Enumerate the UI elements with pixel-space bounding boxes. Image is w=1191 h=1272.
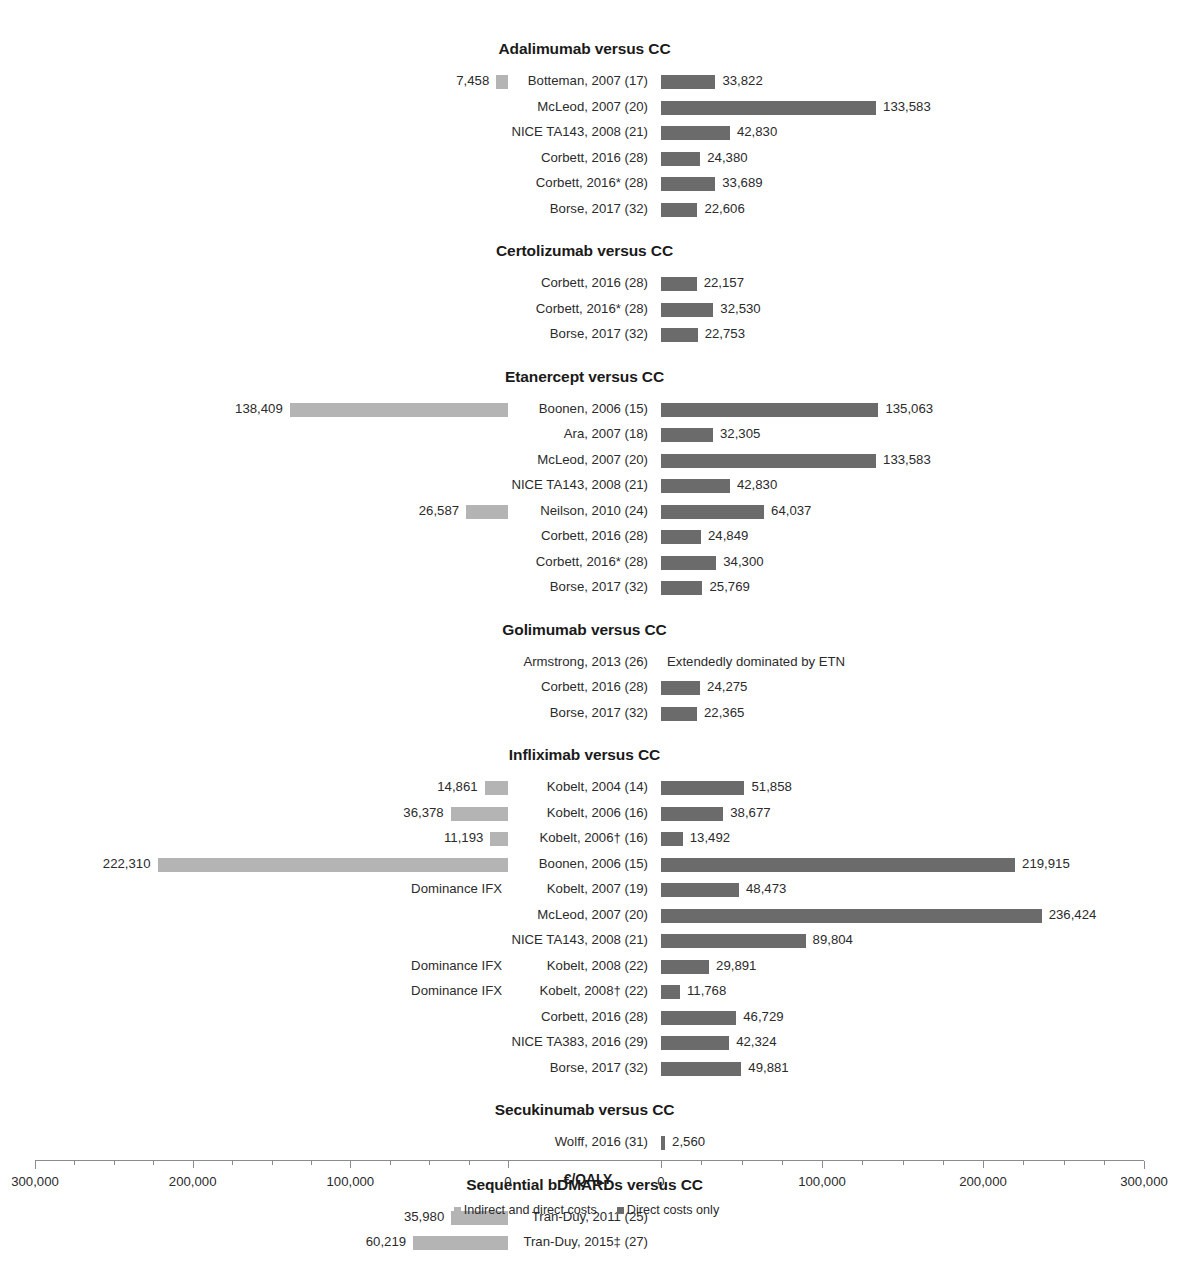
bar-direct-only	[661, 707, 697, 721]
row-right-side: 33,689	[661, 172, 1191, 196]
chart-legend: Indirect and direct costsDirect costs on…	[0, 1203, 1191, 1217]
bar-value-label-right: 49,881	[748, 1060, 788, 1075]
row-left-note: Dominance IFX	[411, 958, 502, 973]
bar-direct-only	[661, 277, 697, 291]
row-left-side	[0, 904, 508, 928]
chart-row: NICE TA383, 2016 (29)42,324	[0, 1031, 1191, 1055]
row-left-side	[0, 1006, 508, 1030]
bar-direct-only	[661, 101, 876, 115]
bar-direct-only	[661, 479, 730, 493]
row-study-label: Borse, 2017 (32)	[508, 326, 654, 341]
bar-value-label-left: 7,458	[456, 73, 489, 88]
legend-swatch-icon	[454, 1207, 461, 1214]
row-study-label: Kobelt, 2008 (22)	[508, 958, 654, 973]
row-study-label: Corbett, 2016 (28)	[508, 150, 654, 165]
row-right-side: 133,583	[661, 96, 1191, 120]
row-right-side: 11,768	[661, 980, 1191, 1004]
bar-value-label-left: 14,861	[437, 779, 477, 794]
chart-row: Ara, 2007 (18)32,305	[0, 423, 1191, 447]
bar-value-label-left: 11,193	[444, 830, 483, 845]
bar-direct-only	[661, 883, 739, 897]
bar-value-label-right: 219,915	[1022, 856, 1070, 871]
row-right-side: 22,753	[661, 323, 1191, 347]
bar-value-label-left: 222,310	[103, 856, 151, 871]
bar-value-label-right: 32,530	[720, 301, 760, 316]
bar-value-label-right: 42,830	[737, 477, 777, 492]
row-study-label: Kobelt, 2008† (22)	[508, 983, 654, 998]
row-right-side: 42,830	[661, 474, 1191, 498]
icer-forest-bar-chart: Adalimumab versus CC7,458Botteman, 2007 …	[0, 0, 1191, 1272]
bar-value-label-left: 26,587	[419, 503, 459, 518]
axis-tick	[311, 1161, 312, 1165]
bar-direct-only	[661, 681, 700, 695]
bar-indirect-and-direct	[290, 403, 508, 417]
row-right-side: 42,830	[661, 121, 1191, 145]
chart-row: NICE TA143, 2008 (21)89,804	[0, 929, 1191, 953]
row-right-side: 135,063	[661, 398, 1191, 422]
bar-value-label-right: 22,753	[705, 326, 745, 341]
row-left-side	[0, 172, 508, 196]
axis-tick	[822, 1161, 823, 1168]
row-left-side: Dominance IFX	[0, 955, 508, 979]
bar-indirect-and-direct	[490, 832, 508, 846]
bar-value-label-right: 13,492	[690, 830, 730, 845]
chart-row: 138,409Boonen, 2006 (15)135,063	[0, 398, 1191, 422]
group-title-text: Infliximab versus CC	[509, 746, 660, 764]
row-right-side: 32,530	[661, 298, 1191, 322]
group-title-text: Certolizumab versus CC	[496, 242, 673, 260]
bar-indirect-and-direct	[451, 807, 508, 821]
row-right-side: 24,275	[661, 676, 1191, 700]
chart-row: McLeod, 2007 (20)133,583	[0, 96, 1191, 120]
chart-row: 36,378Kobelt, 2006 (16)38,677	[0, 802, 1191, 826]
legend-label: Direct costs only	[627, 1203, 719, 1217]
axis-tick-label: 100,000	[798, 1174, 846, 1189]
bar-indirect-and-direct	[496, 75, 508, 89]
row-left-side: 138,409	[0, 398, 508, 422]
axis-tick	[469, 1161, 470, 1165]
bar-value-label-right: 48,473	[746, 881, 786, 896]
chart-row: Borse, 2017 (32)49,881	[0, 1057, 1191, 1081]
row-right-note: Extendedly dominated by ETN	[667, 654, 845, 669]
group-title: Secukinumab versus CC	[0, 1101, 1191, 1119]
row-study-label: Boonen, 2006 (15)	[508, 856, 654, 871]
bar-direct-only	[661, 454, 876, 468]
row-study-label: Corbett, 2016* (28)	[508, 554, 654, 569]
chart-row: 26,587Neilson, 2010 (24)64,037	[0, 500, 1191, 524]
axis-tick	[1104, 1161, 1105, 1165]
row-left-side	[0, 423, 508, 447]
row-left-note: Dominance IFX	[411, 983, 502, 998]
axis-tick	[272, 1161, 273, 1165]
axis-tick	[350, 1161, 351, 1168]
row-right-side: 34,300	[661, 551, 1191, 575]
row-left-side	[0, 525, 508, 549]
chart-row: Corbett, 2016* (28)34,300	[0, 551, 1191, 575]
axis-tick	[661, 1161, 662, 1168]
row-study-label: Borse, 2017 (32)	[508, 579, 654, 594]
axis-tick	[74, 1161, 75, 1165]
row-left-side	[0, 551, 508, 575]
row-left-side: 7,458	[0, 70, 508, 94]
group-title: Golimumab versus CC	[0, 621, 1191, 639]
chart-row: Dominance IFXKobelt, 2007 (19)48,473	[0, 878, 1191, 902]
chart-row: Borse, 2017 (32)22,753	[0, 323, 1191, 347]
bar-value-label-right: 133,583	[883, 99, 931, 114]
row-study-label: NICE TA383, 2016 (29)	[508, 1034, 654, 1049]
row-right-side: 64,037	[661, 500, 1191, 524]
axis-tick	[742, 1161, 743, 1165]
row-left-side: 36,378	[0, 802, 508, 826]
bar-value-label-right: 32,305	[720, 426, 760, 441]
row-left-side: 14,861	[0, 776, 508, 800]
chart-row: Corbett, 2016 (28)24,275	[0, 676, 1191, 700]
bar-direct-only	[661, 126, 730, 140]
chart-row: Wolff, 2016 (31)2,560	[0, 1131, 1191, 1155]
chart-row: Corbett, 2016 (28)46,729	[0, 1006, 1191, 1030]
bar-direct-only	[661, 1011, 736, 1025]
row-right-side: 89,804	[661, 929, 1191, 953]
bar-value-label-right: 135,063	[885, 401, 933, 416]
bar-direct-only	[661, 960, 709, 974]
chart-row: McLeod, 2007 (20)133,583	[0, 449, 1191, 473]
chart-row: 60,219Tran-Duy, 2015‡ (27)	[0, 1231, 1191, 1255]
axis-tick	[1064, 1161, 1065, 1165]
bar-value-label-right: 24,849	[708, 528, 748, 543]
row-left-side	[0, 576, 508, 600]
